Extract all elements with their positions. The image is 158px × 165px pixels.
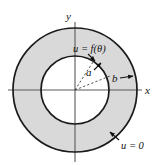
outer-boundary-condition-label: u = 0 <box>121 140 145 151</box>
radius-b-label: b <box>112 72 118 84</box>
annulus-figure: y x u = f(θ) a b u = 0 <box>0 0 158 165</box>
y-axis-label: y <box>65 10 71 22</box>
radius-a-label: a <box>86 66 92 78</box>
figure-canvas: y x u = f(θ) a b u = 0 <box>0 0 158 165</box>
x-axis-label: x <box>144 84 150 96</box>
inner-boundary-condition-label: u = f(θ) <box>73 43 106 55</box>
